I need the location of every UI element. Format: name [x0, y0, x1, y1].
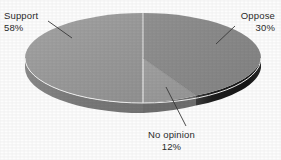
- slice-label-oppose-name: Oppose: [241, 10, 275, 22]
- slice-label-support-value: 58%: [4, 22, 38, 34]
- slice-label-no-opinion-value: 12%: [148, 141, 195, 153]
- slice-label-support: Support 58%: [4, 10, 38, 33]
- slice-label-support-name: Support: [4, 10, 38, 22]
- pie-chart-canvas: [0, 0, 281, 160]
- slice-label-no-opinion-name: No opinion: [148, 129, 195, 141]
- pie-chart-figure: Support 58% Oppose 30% No opinion 12%: [0, 0, 281, 160]
- slice-label-no-opinion: No opinion 12%: [148, 129, 195, 152]
- slice-label-oppose: Oppose 30%: [241, 10, 275, 33]
- slice-label-oppose-value: 30%: [241, 22, 275, 34]
